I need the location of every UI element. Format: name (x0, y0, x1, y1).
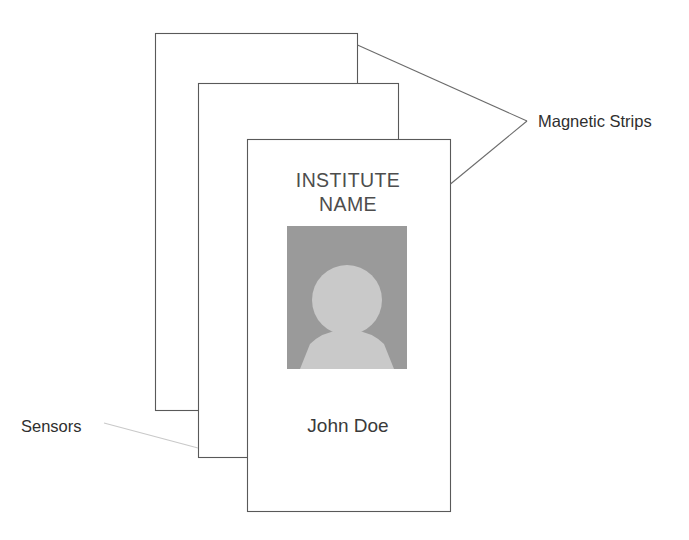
institute-name-line-2: NAME (319, 193, 377, 215)
sensors-label: Sensors (21, 417, 82, 435)
diagram-canvas: INSTITUTE NAME John Doe Magnetic Strips … (0, 0, 689, 540)
silhouette-head (312, 265, 382, 335)
card-holder-name: John Doe (307, 415, 388, 436)
magnetic-strips-label: Magnetic Strips (538, 112, 652, 130)
institute-name-line-1: INSTITUTE (296, 169, 400, 191)
magnetic-strips-leader-lower (451, 121, 528, 184)
person-silhouette-photo (287, 226, 407, 369)
id-card-stack-diagram: INSTITUTE NAME John Doe Magnetic Strips … (0, 0, 689, 540)
sensors-leader (104, 423, 198, 448)
